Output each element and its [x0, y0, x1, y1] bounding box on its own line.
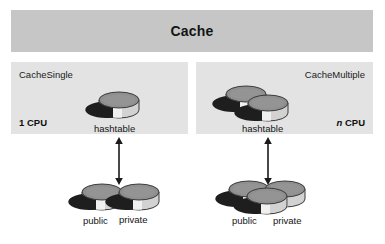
label-public-single: public [83, 215, 108, 226]
label-hashtable-multiple: hashtable [242, 123, 283, 134]
disc-hashtable-multiple-front [248, 95, 288, 123]
label-hashtable-single: hashtable [94, 123, 135, 134]
label-private-single: private [119, 214, 148, 225]
panel-cache-multiple-title: CacheMultiple [305, 69, 365, 80]
label-public-multiple: public [232, 215, 257, 226]
cache-banner-title: Cache [170, 23, 213, 39]
label-private-multiple: private [273, 215, 302, 226]
disc-private-single [119, 184, 159, 212]
cpu-suffix-multiple: CPU [342, 117, 365, 128]
disc-hashtable-single [99, 92, 139, 120]
diagram-canvas: Cache CacheSingle 1 CPU hashtable [0, 0, 385, 244]
panel-cache-single-cpu-label: 1 CPU [19, 117, 47, 128]
panel-cache-multiple-cpu-label: n CPU [336, 117, 365, 128]
cpu-suffix-single: CPU [24, 117, 47, 128]
arrow-cache-multiple [261, 137, 275, 185]
disc-public-multiple-front [247, 188, 287, 216]
panel-cache-single-title: CacheSingle [19, 69, 73, 80]
arrow-cache-single [112, 137, 126, 185]
cache-banner: Cache [11, 10, 373, 52]
